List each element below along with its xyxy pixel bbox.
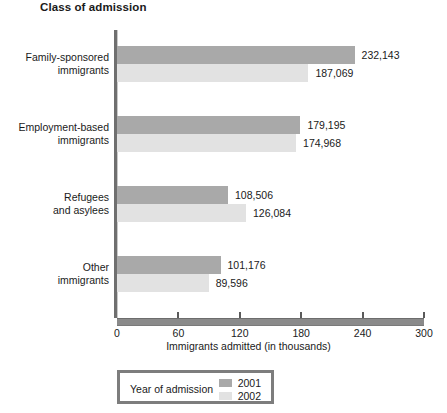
x-axis-tick-label: 60 xyxy=(173,327,185,339)
category-label-line: immigrants xyxy=(19,134,109,147)
bar-value-label: 126,084 xyxy=(253,204,291,222)
x-axis-tick-label: 180 xyxy=(292,327,310,339)
bar-value-label: 232,143 xyxy=(362,46,400,64)
bar-value-label: 187,069 xyxy=(315,64,353,82)
category-label-line: immigrants xyxy=(26,64,109,77)
legend-swatch-icon-2001 xyxy=(219,379,232,387)
bar-2002-group-2 xyxy=(117,134,296,152)
category-label-line: Employment-based xyxy=(19,121,109,134)
bar-value-label: 179,195 xyxy=(307,116,345,134)
category-label-line: Refugees xyxy=(53,191,109,204)
x-axis-underline xyxy=(117,325,424,326)
bar-2002-group-3 xyxy=(117,204,246,222)
bar-value-label: 174,968 xyxy=(303,134,341,152)
category-label-line: immigrants xyxy=(58,274,109,287)
legend-label: 2001 xyxy=(238,377,261,389)
legend-label: 2002 xyxy=(238,390,261,402)
x-axis-tick-label: 0 xyxy=(114,327,120,339)
bar-2001-group-3 xyxy=(117,186,228,204)
bar-2001-group-4 xyxy=(117,256,221,274)
category-label-2: Employment-basedimmigrants xyxy=(19,121,109,147)
x-axis-tick xyxy=(423,312,425,318)
x-axis-title: Immigrants admitted (in thousands) xyxy=(0,340,447,352)
legend-row-2002: 2002 xyxy=(219,390,261,402)
plot-area: 232,143187,069179,195174,968108,506126,0… xyxy=(117,30,424,318)
x-axis-tick xyxy=(239,312,241,318)
x-axis-tick xyxy=(177,312,179,318)
legend-row-2001: 2001 xyxy=(219,377,261,389)
bar-2001-group-1 xyxy=(117,46,355,64)
category-label-1: Family-sponsoredimmigrants xyxy=(26,51,109,77)
legend: Year of admission 20012002 xyxy=(117,370,274,404)
x-axis-tick xyxy=(362,312,364,318)
legend-title: Year of admission xyxy=(130,383,213,395)
bar-value-label: 101,176 xyxy=(228,256,266,274)
x-axis-tick-label: 120 xyxy=(231,327,249,339)
legend-swatch-icon-2002 xyxy=(219,392,232,400)
category-label-3: Refugeesand asylees xyxy=(53,191,109,217)
bar-chart: Class of admission 232,143187,069179,195… xyxy=(0,0,447,413)
bar-2001-group-2 xyxy=(117,116,300,134)
x-axis-bar xyxy=(117,318,424,325)
bar-value-label: 108,506 xyxy=(235,186,273,204)
bar-value-label: 89,596 xyxy=(216,274,248,292)
category-label-line: and asylees xyxy=(53,204,109,217)
chart-title: Class of admission xyxy=(40,1,147,13)
category-label-4: Otherimmigrants xyxy=(58,261,109,287)
legend-entries: 20012002 xyxy=(219,376,261,402)
category-label-line: Family-sponsored xyxy=(26,51,109,64)
x-axis-tick-label: 300 xyxy=(415,327,433,339)
bar-2002-group-1 xyxy=(117,64,308,82)
category-label-line: Other xyxy=(58,261,109,274)
x-axis-tick-label: 240 xyxy=(354,327,372,339)
bar-2002-group-4 xyxy=(117,274,209,292)
x-axis-tick xyxy=(300,312,302,318)
